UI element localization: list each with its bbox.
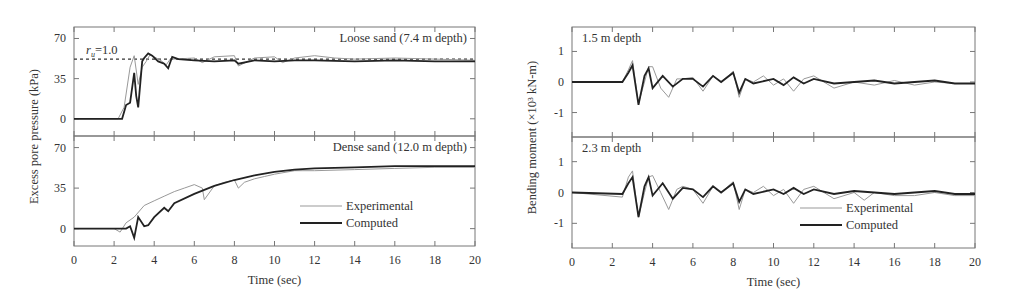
experimental-series xyxy=(74,167,475,232)
y-tick-label: 0 xyxy=(558,75,564,89)
computed-series xyxy=(74,53,475,118)
x-tick-label: 14 xyxy=(848,255,860,269)
x-tick-label: 2 xyxy=(111,253,117,267)
y-axis-label: Bending moment (×10³ kN-m) xyxy=(525,61,539,215)
x-tick-label: 10 xyxy=(269,253,281,267)
x-tick-label: 4 xyxy=(650,255,656,269)
panel-top: 10-11.5 m depth xyxy=(554,27,975,137)
y-tick-label: 0 xyxy=(60,222,66,236)
x-tick-label: 18 xyxy=(929,255,941,269)
x-axis-label: Time (sec) xyxy=(747,275,800,289)
x-axis-label: Time (sec) xyxy=(248,273,301,287)
x-tick-label: 14 xyxy=(349,253,361,267)
x-tick-label: 10 xyxy=(768,255,780,269)
bending-moment-chart: 10-11.5 m depth10-12.3 m depth0246810121… xyxy=(525,27,981,289)
y-tick-label: 1 xyxy=(558,155,564,169)
y-tick-label: 70 xyxy=(54,31,66,45)
panel-bottom: 03570Dense sand (12.0 m depth) xyxy=(54,136,475,246)
y-tick-label: -1 xyxy=(554,106,564,120)
x-tick-label: 8 xyxy=(730,255,736,269)
computed-series xyxy=(74,166,475,238)
legend-label-experimental: Experimental xyxy=(346,199,414,213)
panel-label: Loose sand (7.4 m depth) xyxy=(340,31,467,45)
legend-label-computed: Computed xyxy=(346,216,399,230)
x-tick-label: 16 xyxy=(389,253,401,267)
panel-top: 03570ru=1.0Loose sand (7.4 m depth) xyxy=(54,27,475,136)
panel-label: Dense sand (12.0 m depth) xyxy=(333,140,467,154)
panel-bottom: 10-12.3 m depth xyxy=(554,137,975,248)
x-tick-label: 12 xyxy=(309,253,321,267)
legend-label-experimental: Experimental xyxy=(846,201,914,215)
x-tick-label: 20 xyxy=(469,253,481,267)
computed-series xyxy=(572,177,975,217)
x-tick-label: 20 xyxy=(969,255,981,269)
y-tick-label: 70 xyxy=(54,141,66,155)
x-tick-label: 0 xyxy=(569,255,575,269)
y-tick-label: 1 xyxy=(558,44,564,58)
legend-label-computed: Computed xyxy=(846,218,899,232)
y-axis-label: Excess pore pressure (kPa) xyxy=(27,69,41,204)
figure: 03570ru=1.0Loose sand (7.4 m depth)03570… xyxy=(0,0,1012,301)
pore-pressure-chart: 03570ru=1.0Loose sand (7.4 m depth)03570… xyxy=(27,27,481,287)
experimental-series xyxy=(74,55,475,119)
x-tick-label: 8 xyxy=(231,253,237,267)
panel-label: 1.5 m depth xyxy=(582,31,642,45)
panel-label: 2.3 m depth xyxy=(582,141,642,155)
x-tick-label: 6 xyxy=(191,253,197,267)
ru-label: ru=1.0 xyxy=(86,43,118,59)
y-tick-label: 35 xyxy=(54,72,66,86)
x-tick-label: 18 xyxy=(429,253,441,267)
x-tick-label: 12 xyxy=(808,255,820,269)
x-tick-label: 0 xyxy=(71,253,77,267)
y-tick-label: 0 xyxy=(60,112,66,126)
x-tick-label: 16 xyxy=(888,255,900,269)
x-tick-label: 4 xyxy=(151,253,157,267)
x-tick-label: 2 xyxy=(609,255,615,269)
y-tick-label: 0 xyxy=(558,186,564,200)
y-tick-label: 35 xyxy=(54,181,66,195)
x-tick-label: 6 xyxy=(690,255,696,269)
y-tick-label: -1 xyxy=(554,216,564,230)
